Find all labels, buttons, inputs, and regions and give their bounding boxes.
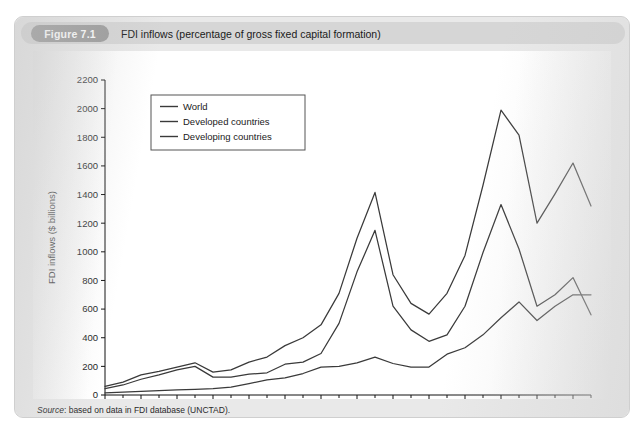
series-developed-countries [105,205,591,389]
source-label: Source [37,405,64,415]
svg-text:1600: 1600 [77,160,98,171]
svg-text:Developed countries: Developed countries [183,116,270,127]
svg-text:800: 800 [82,275,98,286]
figure-source: Source: based on data in FDI database (U… [37,405,230,415]
svg-text:1000: 1000 [77,246,98,257]
svg-text:1800: 1800 [77,132,98,143]
running-head [410,1,620,11]
svg-text:1200: 1200 [77,218,98,229]
plot-area: 0200400600800100012001400160018002000220… [33,51,611,399]
svg-text:2200: 2200 [77,74,98,85]
figure-caption-bar: Figure 7.1 FDI inflows (percentage of gr… [21,22,625,44]
svg-text:FDI inflows ($ billions): FDI inflows ($ billions) [46,191,57,284]
svg-text:600: 600 [82,303,98,314]
figure-caption-text: FDI inflows (percentage of gross fixed c… [121,25,381,42]
svg-text:World: World [183,101,208,112]
svg-text:0: 0 [93,389,98,399]
svg-text:2000: 2000 [77,103,98,114]
source-text: : based on data in FDI database (UNCTAD)… [64,405,230,415]
line-chart: 0200400600800100012001400160018002000220… [33,51,611,399]
svg-text:200: 200 [82,361,98,372]
figure-panel: Figure 7.1 FDI inflows (percentage of gr… [14,16,630,418]
svg-text:Developing countries: Developing countries [183,131,272,142]
figure-number-badge: Figure 7.1 [31,25,109,42]
svg-text:1400: 1400 [77,189,98,200]
svg-text:400: 400 [82,332,98,343]
series-developing-countries [105,295,591,393]
